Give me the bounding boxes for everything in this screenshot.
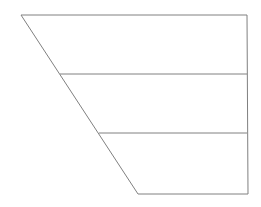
- trapezoid-outline: [21, 15, 248, 194]
- tiered-trapezoid-diagram: [0, 0, 261, 207]
- diagram-canvas: [0, 0, 261, 207]
